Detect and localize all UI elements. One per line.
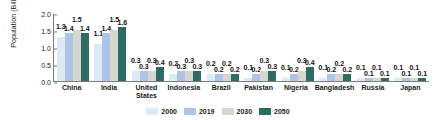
bar[interactable]: 0.2 — [252, 74, 260, 81]
bar[interactable]: 0.2 — [231, 74, 239, 81]
bar-group: 0.20.30.30.3 — [167, 14, 205, 81]
bar[interactable]: 1.6 — [118, 27, 126, 81]
bar[interactable]: 1.4 — [81, 33, 89, 81]
bar[interactable]: 0.1 — [394, 78, 402, 81]
bar[interactable]: 0.2 — [290, 74, 298, 81]
bar-value-label: 0.2 — [214, 66, 224, 73]
bar[interactable]: 1.1 — [94, 44, 102, 81]
population-bar-chart: Population (Billions) 0.00.51.01.52.0 1.… — [0, 0, 436, 120]
bar[interactable]: 0.3 — [140, 71, 148, 81]
bar[interactable]: 0.3 — [193, 71, 201, 81]
legend-item[interactable]: 2000 — [146, 108, 177, 115]
legend-item[interactable]: 2019 — [184, 108, 215, 115]
bar-value-label: 1.5 — [72, 16, 82, 23]
bar-value-label: 0.4 — [305, 59, 315, 66]
x-tick-label: Pakistan — [240, 84, 277, 104]
chart-legend: 2000201920302050 — [0, 104, 436, 118]
bar[interactable]: 0.3 — [185, 71, 193, 81]
x-tick-label: Nigeria — [277, 84, 314, 104]
bar-value-label: 0.1 — [401, 70, 411, 77]
x-tick-label: India — [90, 84, 127, 104]
x-tick-label: United States — [128, 84, 165, 104]
bar-value-label: 0.3 — [139, 63, 149, 70]
x-tick-label: China — [53, 84, 90, 104]
bar-value-label: 0.3 — [267, 63, 277, 70]
legend-swatch — [184, 108, 196, 115]
bar-value-label: 0.1 — [364, 70, 374, 77]
bar[interactable]: 0.3 — [298, 71, 306, 81]
bar[interactable]: 0.1 — [319, 78, 327, 81]
bar-value-label: 0.2 — [342, 66, 352, 73]
bar[interactable]: 0.1 — [373, 78, 381, 81]
bar[interactable]: 0.1 — [410, 78, 418, 81]
x-tick-label: Russia — [354, 84, 391, 104]
bar-value-label: 0.1 — [380, 70, 390, 77]
bar[interactable]: 0.2 — [327, 74, 335, 81]
x-tick-label: Indonesia — [165, 84, 202, 104]
bar[interactable]: 1.5 — [110, 30, 118, 81]
bar-value-label: 0.3 — [176, 63, 186, 70]
y-tick-label: 2.0 — [41, 11, 51, 18]
bar[interactable]: 0.2 — [215, 74, 223, 81]
y-tick-label: 0.0 — [41, 79, 51, 86]
bar-group: 0.20.20.20.2 — [204, 14, 242, 81]
plot-area: 0.00.51.01.52.0 1.31.41.51.41.11.41.51.6… — [53, 14, 429, 82]
bar[interactable]: 0.1 — [402, 78, 410, 81]
bar[interactable]: 0.2 — [335, 74, 343, 81]
x-tick-label: Bangladesh — [315, 84, 355, 104]
bar-group: 0.30.30.30.4 — [129, 14, 167, 81]
bar-value-label: 1.4 — [80, 25, 90, 32]
bar[interactable]: 0.1 — [357, 78, 365, 81]
bar[interactable]: 0.1 — [418, 78, 426, 81]
bar[interactable]: 0.2 — [207, 74, 215, 81]
bar[interactable]: 0.4 — [156, 67, 164, 81]
y-axis-title: Population (Billions) — [9, 0, 21, 59]
legend-label: 2050 — [274, 108, 290, 115]
bar[interactable]: 0.1 — [282, 78, 290, 81]
legend-item[interactable]: 2050 — [259, 108, 290, 115]
bar[interactable]: 0.4 — [306, 67, 314, 81]
bar[interactable]: 0.3 — [260, 71, 268, 81]
bar-value-label: 0.4 — [155, 59, 165, 66]
y-tick-label: 0.5 — [41, 62, 51, 69]
legend-swatch — [222, 108, 234, 115]
bar-group: 1.31.41.51.4 — [54, 14, 92, 81]
bar-groups: 1.31.41.51.41.11.41.51.60.30.30.30.40.20… — [54, 14, 429, 81]
y-tick-label: 1.5 — [41, 28, 51, 35]
x-axis-labels: ChinaIndiaUnited StatesIndonesiaBrazilPa… — [53, 84, 429, 104]
legend-item[interactable]: 2030 — [222, 108, 253, 115]
legend-label: 2019 — [199, 108, 215, 115]
legend-label: 2030 — [237, 108, 253, 115]
bar[interactable]: 1.5 — [73, 30, 81, 81]
bar[interactable]: 1.4 — [102, 33, 110, 81]
bar-group: 1.11.41.51.6 — [92, 14, 130, 81]
x-tick-label: Brazil — [203, 84, 240, 104]
bar-group: 0.10.10.10.1 — [354, 14, 392, 81]
bar[interactable]: 0.3 — [148, 71, 156, 81]
legend-swatch — [146, 108, 158, 115]
bar[interactable]: 0.1 — [381, 78, 389, 81]
bar[interactable]: 0.3 — [177, 71, 185, 81]
bar[interactable]: 0.2 — [169, 74, 177, 81]
bar[interactable]: 0.1 — [244, 78, 252, 81]
bar-group: 0.10.20.20.2 — [317, 14, 355, 81]
bar-value-label: 0.1 — [417, 70, 427, 77]
bar-value-label: 0.2 — [230, 66, 240, 73]
bar[interactable]: 1.4 — [65, 33, 73, 81]
bar-group: 0.10.20.30.3 — [242, 14, 280, 81]
legend-swatch — [259, 108, 271, 115]
bar[interactable]: 0.2 — [223, 74, 231, 81]
x-tick-label: Japan — [392, 84, 429, 104]
y-tick-label: 1.0 — [41, 45, 51, 52]
bar-value-label: 0.3 — [192, 63, 202, 70]
bar[interactable]: 0.3 — [132, 71, 140, 81]
bar[interactable]: 0.3 — [268, 71, 276, 81]
bar[interactable]: 1.3 — [57, 37, 65, 81]
legend-label: 2000 — [161, 108, 177, 115]
bar-value-label: 1.6 — [117, 19, 127, 26]
bar-value-label: 0.2 — [326, 66, 336, 73]
bar-group: 0.10.10.10.1 — [392, 14, 430, 81]
bar-group: 0.10.20.30.4 — [279, 14, 317, 81]
bar[interactable]: 0.2 — [343, 74, 351, 81]
bar[interactable]: 0.1 — [365, 78, 373, 81]
